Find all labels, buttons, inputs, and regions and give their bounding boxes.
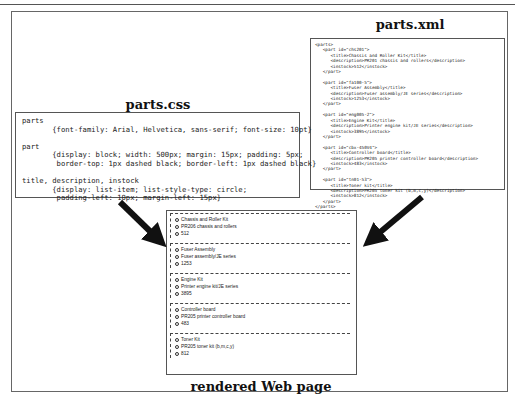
arrow-icon bbox=[0, 0, 515, 400]
